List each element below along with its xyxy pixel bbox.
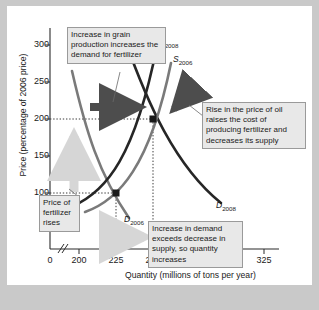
curve-label-d2006: D2006 bbox=[124, 214, 144, 226]
callout-price-rise: Price of fertilizer rises bbox=[39, 195, 80, 232]
equilibrium-2008 bbox=[150, 116, 157, 123]
curve-label-d2008: D2008 bbox=[216, 200, 236, 212]
curve-d2006 bbox=[72, 71, 129, 218]
figure-panel: Price (percentage of 2006 price) Quantit… bbox=[7, 6, 312, 285]
callout-supply-decrease: Rise in the price of oil raises the cost… bbox=[202, 102, 306, 149]
equilibrium-2006 bbox=[113, 190, 120, 197]
supply-shift-arrow bbox=[174, 94, 188, 109]
callout-demand-increase: Increase in grain production increases t… bbox=[67, 27, 166, 64]
curve-label-s2006: S2006 bbox=[173, 54, 192, 66]
callout-quantity-increase: Increase in demand exceeds decrease in s… bbox=[148, 221, 243, 268]
